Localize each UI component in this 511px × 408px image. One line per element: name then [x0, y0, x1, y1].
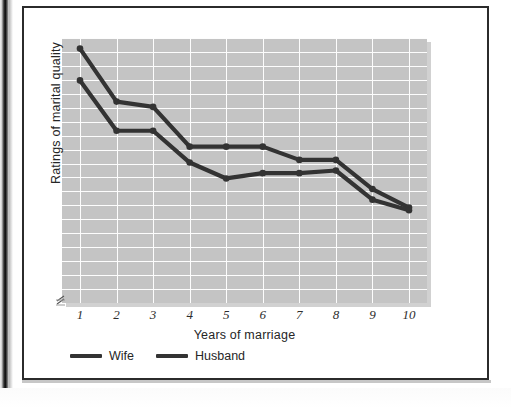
data-point-marker	[186, 159, 193, 166]
x-axis-title: Years of marriage	[62, 328, 427, 342]
x-tick-label: 7	[284, 307, 314, 323]
page-frame-shadow	[22, 380, 491, 383]
page-bottom-edge	[0, 388, 511, 408]
legend-label: Wife	[109, 349, 134, 363]
axis-break-icon	[56, 289, 76, 307]
data-point-marker	[369, 186, 376, 193]
legend-swatch-icon	[70, 354, 102, 358]
data-point-marker	[77, 45, 84, 52]
x-tick-label: 4	[175, 307, 205, 323]
x-tick-label: 1	[65, 307, 95, 323]
x-tick-label: 2	[102, 307, 132, 323]
x-tick-label: 3	[138, 307, 168, 323]
x-tick-label: 8	[321, 307, 351, 323]
legend-item-wife: Wife	[70, 349, 134, 363]
data-point-marker	[223, 175, 230, 182]
x-tick-label: 9	[357, 307, 387, 323]
data-point-marker	[150, 127, 157, 134]
chart-figure: 12345678910 Years of marriage Ratings of…	[22, 6, 489, 380]
data-point-marker	[223, 143, 230, 150]
data-point-marker	[259, 143, 266, 150]
x-tick-label: 5	[211, 307, 241, 323]
book-spine-shadow	[9, 0, 13, 390]
data-point-marker	[259, 170, 266, 177]
data-point-marker	[113, 127, 120, 134]
book-spine	[0, 0, 9, 390]
series-lines	[62, 38, 427, 303]
data-point-marker	[296, 157, 303, 164]
data-point-marker	[77, 77, 84, 84]
chart-legend: WifeHusband	[70, 349, 245, 363]
data-point-marker	[406, 207, 413, 214]
x-axis-tick-labels: 12345678910	[62, 307, 427, 329]
x-tick-label: 10	[394, 307, 424, 323]
data-point-marker	[113, 98, 120, 105]
legend-label: Husband	[195, 349, 245, 363]
legend-swatch-icon	[156, 354, 188, 358]
y-axis-title: Ratings of marital quality	[49, 13, 63, 213]
data-point-marker	[333, 167, 340, 174]
data-point-marker	[186, 143, 193, 150]
data-point-marker	[333, 157, 340, 164]
series-line-wife	[80, 49, 409, 208]
data-point-marker	[296, 170, 303, 177]
data-point-marker	[369, 196, 376, 203]
data-point-marker	[150, 104, 157, 111]
x-tick-label: 6	[248, 307, 278, 323]
legend-item-husband: Husband	[156, 349, 245, 363]
